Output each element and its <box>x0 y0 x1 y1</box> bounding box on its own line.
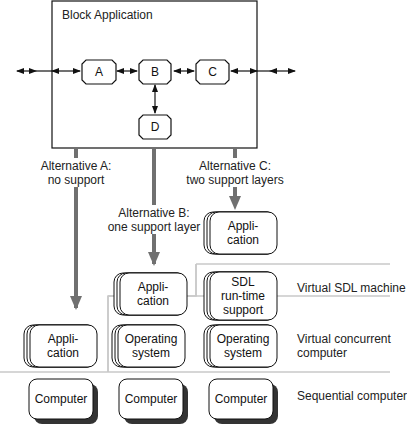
layer-sequential-computer: Sequential computer <box>297 389 407 403</box>
alt-a-line2: no support <box>26 173 126 187</box>
node-a-label: A <box>82 60 116 84</box>
alt-b-operating-system: Operating system <box>118 325 184 367</box>
alt-b-line1: Alternative B: <box>104 206 204 220</box>
alt-b-line2: one support layer <box>104 220 204 234</box>
alt-c-operating-system: Operating system <box>210 325 276 367</box>
block-title: Block Application <box>62 8 153 22</box>
alt-a-label: Alternative A: no support <box>26 159 126 187</box>
alt-c-application: Appli- cation <box>210 212 276 254</box>
computer-b: Computer <box>119 379 183 419</box>
computer-c: Computer <box>209 379 273 419</box>
layer-virtual-concurrent-computer: Virtual concurrent computer <box>297 332 391 360</box>
alt-c-sdl-runtime: SDL run-time support <box>210 272 276 320</box>
alt-c-label: Alternative C: two support layers <box>180 159 290 187</box>
alt-a-application: Appli- cation <box>30 325 96 367</box>
alt-b-label: Alternative B: one support layer <box>104 206 204 234</box>
node-c-label: C <box>196 60 229 84</box>
layer-virtual-sdl-machine: Virtual SDL machine <box>297 281 406 295</box>
alt-c-line2: two support layers <box>180 173 290 187</box>
alt-c-line1: Alternative C: <box>180 159 290 173</box>
alt-b-application: Appli- cation <box>120 273 186 315</box>
node-b-label: B <box>139 60 171 84</box>
alt-a-line1: Alternative A: <box>26 159 126 173</box>
computer-a: Computer <box>29 379 93 419</box>
node-d-label: D <box>139 115 171 139</box>
